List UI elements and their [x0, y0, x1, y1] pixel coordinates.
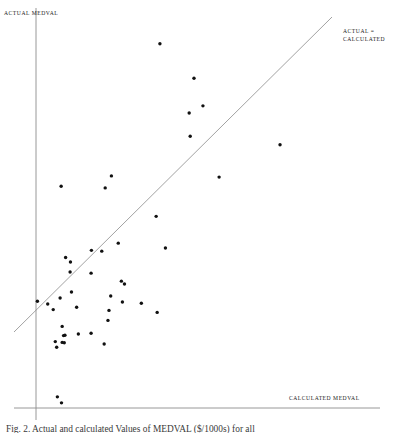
data-point: [201, 104, 204, 107]
x-axis-label: CALCULATED MEDVAL: [289, 394, 360, 402]
data-point: [68, 270, 71, 273]
figure-caption: Fig. 2. Actual and calculated Values of …: [6, 424, 387, 433]
data-point: [121, 300, 124, 303]
data-point: [60, 325, 63, 328]
data-point: [154, 215, 157, 218]
data-point: [36, 299, 39, 302]
data-point: [158, 42, 161, 45]
plot-canvas: [0, 0, 393, 433]
data-point: [89, 271, 92, 274]
data-point: [117, 241, 120, 244]
data-point: [63, 341, 66, 344]
data-point: [77, 332, 80, 335]
data-point: [63, 334, 66, 337]
data-point: [64, 256, 67, 259]
data-point: [123, 282, 126, 285]
data-point: [100, 249, 103, 252]
data-point: [60, 401, 63, 404]
data-point: [109, 294, 112, 297]
data-points-group: [36, 42, 282, 404]
data-point: [55, 346, 58, 349]
identity-reference-line: [14, 17, 332, 332]
data-point: [187, 111, 190, 114]
data-point: [110, 174, 113, 177]
data-point: [58, 296, 61, 299]
data-point: [46, 302, 49, 305]
data-point: [106, 319, 109, 322]
data-point: [75, 305, 78, 308]
data-point: [70, 290, 73, 293]
data-point: [192, 77, 195, 80]
data-point: [189, 135, 192, 138]
data-point: [59, 185, 62, 188]
data-point: [104, 186, 107, 189]
data-point: [140, 301, 143, 304]
data-point: [89, 332, 92, 335]
y-axis-label: ACTUAL MEDVAL: [4, 9, 58, 17]
data-point: [120, 279, 123, 282]
data-point: [56, 395, 59, 398]
data-point: [52, 308, 55, 311]
data-point: [102, 342, 105, 345]
data-point: [90, 249, 93, 252]
data-point: [107, 309, 110, 312]
data-point: [164, 246, 167, 249]
scatter-plot-figure: ACTUAL MEDVAL CALCULATED MEDVAL ACTUAL =…: [0, 0, 393, 433]
data-point: [155, 311, 158, 314]
data-point: [54, 340, 57, 343]
data-point: [69, 260, 72, 263]
axes-group: [14, 8, 380, 420]
data-point: [217, 175, 220, 178]
data-point: [278, 143, 281, 146]
reference-line-annotation: ACTUAL = CALCULATED: [343, 27, 393, 43]
